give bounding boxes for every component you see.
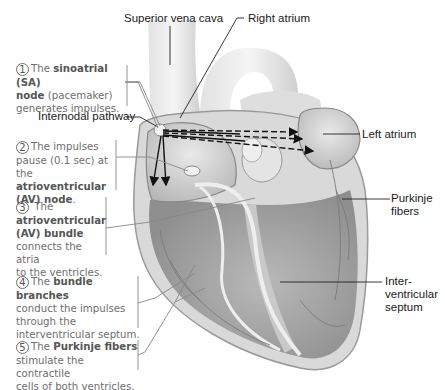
superior-vena-cava [148, 20, 200, 118]
step-5: 5The Purkinje fibers stimulate the contr… [16, 340, 141, 390]
label-purkinje-fibers: Purkinje fibers [391, 192, 433, 218]
step-2: 2The impulses pause (0.1 sec) at the atr… [16, 140, 116, 206]
label-superior-vena-cava: Superior vena cava [124, 12, 223, 25]
step-number-badge: 3 [16, 201, 29, 214]
left-atrium-chamber [298, 108, 360, 169]
label-right-atrium: Right atrium [248, 12, 310, 25]
label-left-atrium: Left atrium [362, 128, 416, 141]
label-interventricular-septum: Inter- ventricular septum [385, 275, 438, 314]
step-number-badge: 4 [16, 276, 29, 289]
av-node [184, 166, 200, 176]
step-4: 4The bundle branches conduct the impulse… [16, 275, 141, 341]
step-3: 3 The atrioventricular (AV) bundle conne… [16, 200, 108, 279]
step-number-badge: 1 [16, 63, 29, 76]
step-number-badge: 5 [16, 341, 29, 354]
step-number-badge: 2 [16, 141, 29, 154]
step-1: 1The sinoatrial (SA) node (pacemaker) ge… [16, 62, 126, 115]
